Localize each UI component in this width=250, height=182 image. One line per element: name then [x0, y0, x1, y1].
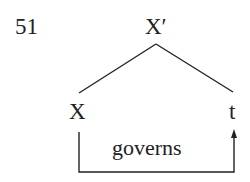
head-node-x: X [69, 100, 86, 123]
root-node-xbar: X′ [145, 15, 167, 38]
branch-right [156, 44, 233, 92]
governs-label: governs [112, 137, 182, 159]
syntax-tree-diagram: 51 X′ X t governs [0, 0, 250, 182]
arrowhead-icon [231, 129, 237, 138]
example-number: 51 [15, 15, 38, 38]
branch-left [79, 44, 156, 93]
trace-node-t: t [229, 100, 235, 123]
